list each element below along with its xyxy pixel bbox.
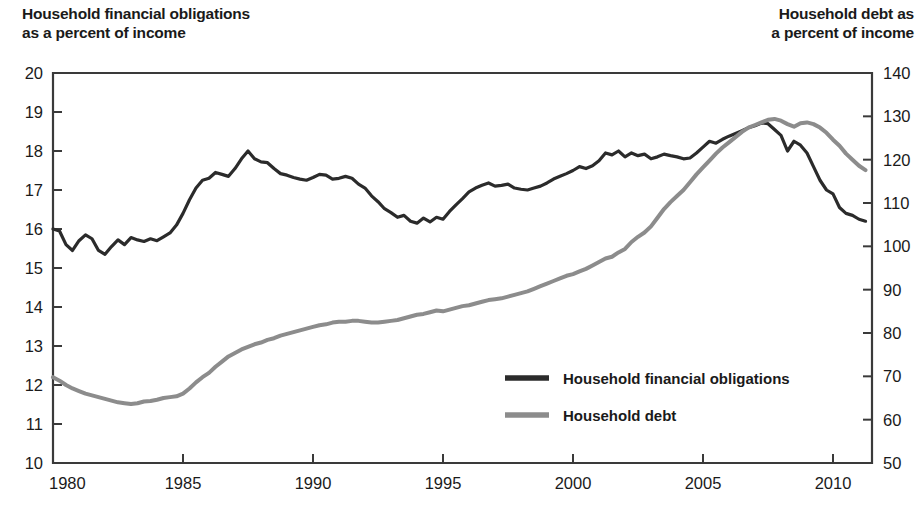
y-tick-label: 20 [25, 64, 43, 82]
y-tick-label: 15 [25, 259, 43, 277]
plot-frame [53, 73, 872, 463]
chart-figure: Household financial obligations as a per… [0, 0, 922, 510]
y2-tick-label: 120 [883, 151, 911, 169]
legend-label-0: Household financial obligations [563, 370, 790, 387]
axis-tick-labels: 1011121314151617181920506070809010011012… [25, 64, 911, 492]
legend-label-1: Household debt [563, 407, 676, 424]
line-chart-plot: 1011121314151617181920506070809010011012… [0, 0, 922, 510]
x-tick-label: 2000 [555, 474, 592, 492]
y-tick-label: 10 [25, 454, 43, 472]
y-tick-label: 17 [25, 181, 43, 199]
y2-tick-label: 110 [883, 194, 909, 212]
y2-tick-label: 80 [883, 324, 901, 342]
series-line-1 [53, 119, 866, 404]
x-tick-label: 1995 [425, 474, 462, 492]
y2-tick-label: 60 [883, 411, 901, 429]
y2-tick-label: 100 [883, 237, 911, 255]
y-tick-label: 14 [25, 298, 43, 316]
series-line-0 [53, 123, 866, 254]
y2-tick-label: 90 [883, 281, 901, 299]
y2-tick-label: 50 [883, 454, 901, 472]
chart-legend: Household financial obligationsHousehold… [505, 370, 790, 424]
x-tick-label: 1985 [165, 474, 202, 492]
data-series-group [53, 119, 866, 404]
y-tick-label: 12 [25, 376, 43, 394]
y-tick-label: 16 [25, 220, 43, 238]
y-tick-label: 18 [25, 142, 43, 160]
y2-tick-label: 140 [883, 64, 911, 82]
y2-tick-label: 130 [883, 107, 911, 125]
y2-tick-label: 70 [883, 367, 901, 385]
x-tick-label: 1990 [295, 474, 332, 492]
y-tick-label: 13 [25, 337, 43, 355]
x-tick-label: 2005 [685, 474, 722, 492]
x-tick-label: 1980 [49, 474, 86, 492]
y-tick-label: 11 [26, 415, 43, 433]
y-tick-label: 19 [25, 103, 43, 121]
x-tick-label: 2010 [815, 474, 852, 492]
plot-border [53, 73, 872, 463]
axis-ticks [53, 112, 872, 463]
